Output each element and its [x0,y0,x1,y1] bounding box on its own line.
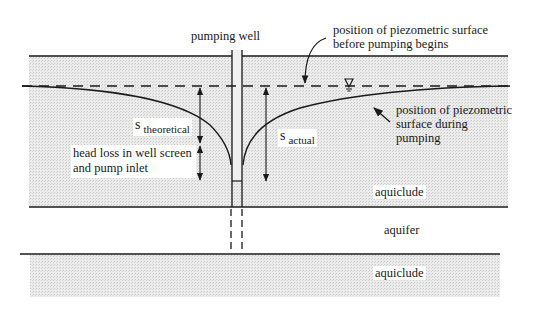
pumping-well-label: pumping well [191,29,260,43]
head-loss-line-2: and pump inlet [73,161,192,176]
s-actual-subscript: actual [288,134,314,146]
s-theoretical-label: stheoretical [133,118,192,136]
head-loss-label: head loss in well screen and pump inlet [71,145,196,178]
piezometric-before-line-2: before pumping begins [333,37,488,51]
piezometric-during-line-2: surface during [396,117,512,131]
s-theoretical-subscript: theoretical [143,123,189,135]
well-casing-interior [232,50,242,181]
piezometric-before-label: position of piezometric surface before p… [333,23,488,51]
s-actual-symbol: s [280,128,285,143]
piezometric-during-line-3: pumping [396,131,512,145]
head-loss-line-1: head loss in well screen [73,146,192,161]
piezometric-during-line-1: position of piezometric [396,103,512,117]
lower-aquiclude-label: aquiclude [373,266,426,280]
s-theoretical-symbol: s [135,117,140,132]
aquifer-label: aquifer [384,223,419,237]
lower-aquiclude-layer [30,255,500,297]
s-actual-label: sactual [278,129,317,147]
upper-aquiclude-label: aquiclude [373,185,426,199]
piezometric-during-label: position of piezometric surface during p… [394,103,514,145]
piezometric-before-line-1: position of piezometric surface [333,23,488,37]
